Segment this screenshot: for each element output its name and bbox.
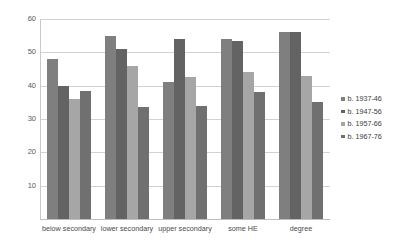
- legend-label: b. 1967-76: [348, 133, 382, 141]
- legend-swatch-icon: [341, 97, 345, 101]
- bar: [116, 49, 127, 219]
- y-axis-tick-label: 30: [2, 115, 36, 123]
- bar: [58, 86, 69, 219]
- legend-swatch-icon: [341, 135, 345, 139]
- bar: [47, 59, 58, 219]
- legend-item[interactable]: b. 1957-66: [341, 120, 382, 128]
- bar: [127, 66, 138, 219]
- bar-group: [214, 19, 272, 219]
- bar: [69, 99, 80, 219]
- x-axis-category-label: some HE: [214, 224, 272, 233]
- bar: [301, 76, 312, 219]
- x-axis-category-label: lower secondary: [98, 224, 156, 233]
- legend-item[interactable]: b. 1947-56: [341, 108, 382, 116]
- legend-item[interactable]: b. 1967-76: [341, 133, 382, 141]
- bar-groups: [40, 19, 330, 219]
- y-axis-tick-label: 50: [2, 48, 36, 56]
- legend-item[interactable]: b. 1937-46: [341, 95, 382, 103]
- bar: [254, 92, 265, 219]
- bar: [80, 91, 91, 219]
- x-axis-category-labels: below secondarylower secondaryupper seco…: [40, 224, 330, 233]
- legend-label: b. 1957-66: [348, 120, 382, 128]
- bar: [163, 82, 174, 219]
- bar-group: [272, 19, 330, 219]
- y-axis-tick-label: 60: [2, 15, 36, 23]
- x-axis-category-label: degree: [272, 224, 330, 233]
- legend-swatch-icon: [341, 122, 345, 126]
- bar: [232, 41, 243, 219]
- y-axis-tick-label: 40: [2, 82, 36, 90]
- y-axis-tick-labels: 102030405060: [0, 19, 36, 219]
- bar-group: [40, 19, 98, 219]
- bar: [105, 36, 116, 219]
- legend-label: b. 1947-56: [348, 108, 382, 116]
- legend-label: b. 1937-46: [348, 95, 382, 103]
- y-axis-tick-label: 20: [2, 148, 36, 156]
- bar-chart: 102030405060 below secondarylower second…: [0, 0, 397, 249]
- legend: b. 1937-46b. 1947-56b. 1957-66b. 1967-76: [341, 95, 382, 141]
- bar: [185, 77, 196, 219]
- bar: [221, 39, 232, 219]
- plot-area: [40, 19, 330, 219]
- bar: [290, 32, 301, 219]
- bar: [279, 32, 290, 219]
- bar: [196, 106, 207, 219]
- y-axis-tick-label: 10: [2, 182, 36, 190]
- legend-swatch-icon: [341, 110, 345, 114]
- bar-group: [98, 19, 156, 219]
- x-axis-category-label: below secondary: [40, 224, 98, 233]
- x-axis-category-label: upper secondary: [156, 224, 214, 233]
- gridline: [40, 219, 330, 220]
- bar: [138, 107, 149, 219]
- bar: [243, 72, 254, 219]
- bar: [312, 102, 323, 219]
- bar-group: [156, 19, 214, 219]
- bar: [174, 39, 185, 219]
